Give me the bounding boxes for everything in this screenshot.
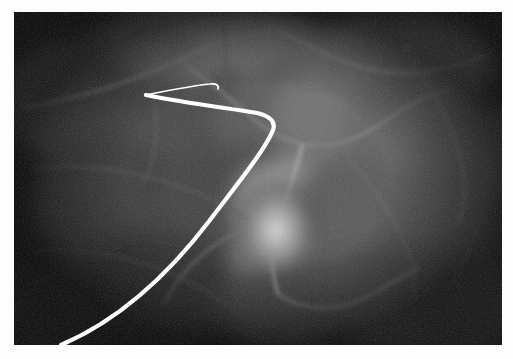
localization-hook-wire — [61, 95, 274, 345]
wire-layer — [14, 12, 502, 345]
screenshot-root: Mammogram with hook-wire needle localiza… — [0, 0, 513, 359]
mammogram-image: Mammogram with hook-wire needle localiza… — [14, 12, 502, 345]
hook-wire-tip — [146, 84, 218, 95]
